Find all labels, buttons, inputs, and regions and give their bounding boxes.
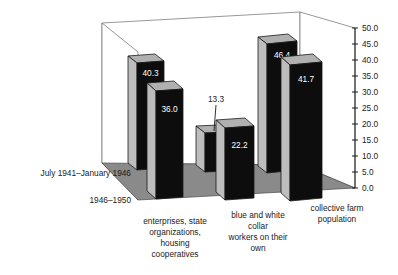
category-label-1: blue and white collar workers on their o…	[227, 210, 287, 253]
y-axis-tick-7: 15.0	[352, 135, 379, 145]
bar-side-face	[216, 120, 225, 200]
y-axis-tick-8: 10.0	[352, 151, 379, 161]
bar-value-label: 41.7	[298, 74, 315, 84]
series-label-0: July 1941–January 1946	[41, 168, 132, 178]
series-legend: July 1941–January 1946 1946–1950	[41, 168, 132, 205]
category-label-line: enterprises, state	[143, 216, 207, 226]
y-tick-label: 20.0	[362, 119, 379, 129]
bar-value-label: 13.3	[208, 94, 225, 104]
y-tick-label: 15.0	[362, 135, 379, 145]
bar-side-face	[128, 56, 137, 170]
category-label-0: enterprises, state organizations, housin…	[143, 216, 207, 259]
bar-cat0-series1[interactable]: 36.0	[147, 81, 183, 199]
chart-canvas: 40.3 36.0 13.3 22.2 46.4 41.7	[0, 0, 398, 275]
y-tick-label: 10.0	[362, 151, 379, 161]
y-axis: 50.0 45.0 40.0 35.0 30.0 25.0 20.0 15.0	[352, 23, 379, 193]
y-axis-tick-5: 25.0	[352, 103, 379, 113]
bar-front-face	[225, 126, 254, 200]
bar-side-face	[147, 83, 156, 199]
category-label-line: organizations,	[149, 227, 201, 237]
y-axis-tick-3: 35.0	[352, 71, 379, 81]
y-axis-tick-1: 45.0	[352, 39, 379, 49]
y-tick-label: 25.0	[362, 103, 379, 113]
y-axis-tick-6: 20.0	[352, 119, 379, 129]
bar-value-label: 40.3	[142, 68, 159, 78]
category-label-line: own	[250, 243, 266, 253]
category-label-line: collective farm	[310, 203, 363, 213]
bar-cat1-series1[interactable]: 22.2	[216, 118, 254, 200]
y-tick-label: 40.0	[362, 55, 379, 65]
y-tick-label: 45.0	[362, 39, 379, 49]
bar-cat2-series1[interactable]: 41.7	[281, 54, 322, 201]
bar-side-face	[258, 37, 267, 173]
y-tick-label: 35.0	[362, 71, 379, 81]
y-tick-label: 5.0	[362, 167, 374, 177]
y-axis-tick-0: 50.0	[352, 23, 379, 33]
y-axis-tick-4: 30.0	[352, 87, 379, 97]
y-axis-tick-2: 40.0	[352, 55, 379, 65]
bar-side-face	[281, 57, 290, 201]
category-label-2: collective farm population	[310, 203, 363, 224]
bar-value-label: 22.2	[231, 140, 248, 150]
y-tick-label: 0.0	[362, 183, 374, 193]
y-tick-label: 50.0	[362, 23, 379, 33]
category-label-line: workers on their	[227, 232, 287, 242]
series-label-1: 1946–1950	[89, 195, 131, 205]
category-label-line: cooperatives	[151, 249, 198, 259]
chart-3d-bar: 40.3 36.0 13.3 22.2 46.4 41.7	[0, 0, 398, 275]
category-label-line: population	[318, 214, 357, 224]
category-label-line: blue and white	[231, 210, 285, 220]
category-label-line: collar	[248, 221, 268, 231]
y-tick-label: 30.0	[362, 87, 379, 97]
bar-side-face	[196, 126, 205, 172]
bar-value-label: 36.0	[161, 104, 178, 114]
category-label-line: housing	[160, 238, 189, 248]
